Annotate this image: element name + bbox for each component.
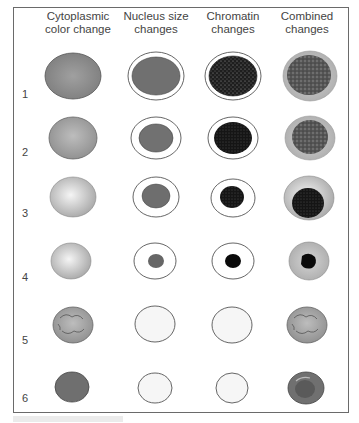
row-5-cells	[53, 306, 327, 343]
figure-caption-fragment	[13, 416, 123, 422]
row-6-cells	[55, 372, 324, 404]
cell-diagram	[0, 0, 359, 423]
row-1-cells	[45, 51, 337, 101]
row-3-cells	[50, 176, 334, 220]
row-4-cells	[51, 242, 329, 280]
row-2-cells	[49, 116, 335, 160]
